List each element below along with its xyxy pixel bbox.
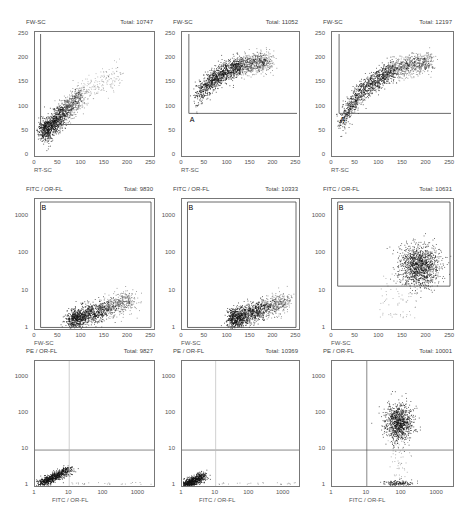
x-tick: 250 — [289, 332, 301, 338]
x-tick: 200 — [121, 332, 133, 338]
y-tick: 50 — [157, 127, 175, 133]
x-tick: 50 — [349, 332, 361, 338]
gate-region — [41, 34, 152, 125]
x-tick: 10 — [360, 489, 372, 495]
event-total: Total: 10369 — [238, 348, 298, 354]
scatter-points: A — [332, 32, 453, 156]
plot-area: A — [181, 31, 300, 157]
scatter-points: B — [35, 199, 154, 329]
y-tick: 200 — [157, 54, 175, 60]
gate-label: B — [339, 204, 344, 211]
scatter-points: A — [182, 32, 299, 156]
y-tick: 50 — [10, 127, 28, 133]
x-tick: 10 — [209, 489, 221, 495]
y-tick: 100 — [307, 249, 325, 255]
y-axis-label: FITC / OR-FL — [323, 186, 359, 192]
plot-area: B — [181, 198, 300, 330]
y-axis-label: PE / OR-FL — [26, 348, 57, 354]
x-axis-label: FW-SC — [181, 340, 201, 346]
x-tick: 250 — [443, 332, 455, 338]
x-tick: 100 — [395, 489, 407, 495]
x-tick: 150 — [98, 332, 110, 338]
x-axis-label: RT-SC — [331, 167, 349, 173]
x-axis-label: RT-SC — [34, 167, 52, 173]
x-axis-label: FW-SC — [331, 340, 351, 346]
event-total: Total: 10333 — [238, 186, 298, 192]
y-axis-label: FITC / OR-FL — [173, 186, 209, 192]
y-tick: 1000 — [307, 373, 325, 379]
x-tick: 250 — [289, 159, 301, 165]
x-tick: 0 — [28, 159, 40, 165]
y-axis-label: FITC / OR-FL — [26, 186, 62, 192]
event-total: Total: 10747 — [93, 19, 153, 25]
x-tick: 200 — [420, 159, 432, 165]
y-tick: 150 — [10, 78, 28, 84]
scatter-points: B — [182, 199, 299, 329]
y-tick: 10 — [10, 445, 28, 451]
x-axis-label: FW-SC — [34, 340, 54, 346]
y-tick: 200 — [307, 54, 325, 60]
y-tick: 1 — [307, 324, 325, 330]
x-tick: 200 — [266, 332, 278, 338]
x-tick: 50 — [198, 159, 210, 165]
y-axis-label: FW-SC — [323, 19, 343, 25]
x-tick: 0 — [325, 159, 337, 165]
plot-area: B — [331, 198, 454, 330]
scatter-points — [332, 361, 453, 486]
x-tick: 100 — [74, 159, 86, 165]
y-tick: 1 — [10, 481, 28, 487]
y-tick: 200 — [10, 54, 28, 60]
gate-region — [187, 202, 296, 327]
x-tick: 100 — [372, 332, 384, 338]
scatter-points: B — [332, 199, 453, 329]
x-tick: 250 — [144, 159, 156, 165]
gate-label: A — [340, 116, 345, 123]
x-tick: 0 — [175, 332, 187, 338]
y-tick: 100 — [10, 249, 28, 255]
x-tick: 200 — [420, 332, 432, 338]
event-total: Total: 12197 — [392, 19, 452, 25]
scatter-points — [35, 32, 154, 156]
y-tick: 1000 — [10, 373, 28, 379]
x-tick: 1 — [325, 489, 337, 495]
event-total: Total: 9827 — [93, 348, 153, 354]
plot-area: B — [34, 198, 155, 330]
scatter-points — [182, 361, 299, 486]
y-tick: 0 — [10, 151, 28, 157]
y-tick: 150 — [157, 78, 175, 84]
x-tick: 100 — [221, 332, 233, 338]
y-tick: 1 — [10, 324, 28, 330]
x-tick: 1000 — [429, 489, 441, 495]
y-tick: 100 — [157, 409, 175, 415]
x-tick: 1 — [28, 489, 40, 495]
y-tick: 250 — [307, 30, 325, 36]
y-tick: 250 — [10, 30, 28, 36]
x-tick: 200 — [121, 159, 133, 165]
event-total: Total: 11052 — [238, 19, 298, 25]
event-total: Total: 9830 — [93, 186, 153, 192]
y-tick: 0 — [157, 151, 175, 157]
x-tick: 100 — [242, 489, 254, 495]
x-tick: 100 — [372, 159, 384, 165]
x-tick: 200 — [266, 159, 278, 165]
x-tick: 10 — [62, 489, 74, 495]
x-tick: 1000 — [131, 489, 143, 495]
x-tick: 1 — [175, 489, 187, 495]
x-axis-label: FITC / OR-FL — [52, 497, 88, 503]
y-tick: 100 — [157, 249, 175, 255]
gate-label: B — [42, 204, 47, 211]
x-axis-label: FITC / OR-FL — [199, 497, 235, 503]
y-tick: 150 — [307, 78, 325, 84]
x-tick: 100 — [74, 332, 86, 338]
x-tick: 150 — [244, 159, 256, 165]
x-tick: 50 — [51, 159, 63, 165]
x-tick: 100 — [96, 489, 108, 495]
y-tick: 10 — [157, 445, 175, 451]
x-tick: 0 — [325, 332, 337, 338]
plot-area — [181, 360, 300, 487]
y-tick: 10 — [307, 287, 325, 293]
y-tick: 1000 — [10, 212, 28, 218]
x-tick: 150 — [396, 332, 408, 338]
x-tick: 150 — [98, 159, 110, 165]
x-tick: 50 — [349, 159, 361, 165]
